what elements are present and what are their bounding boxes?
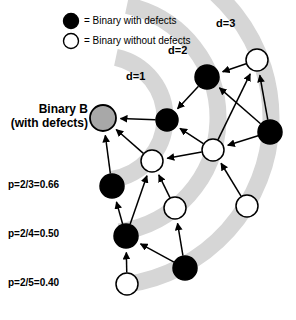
distance-label-d2: d=2 (168, 44, 187, 56)
edge-n8-to-B (105, 135, 110, 173)
node-n5-clean (202, 139, 224, 161)
probability-label-1: p=2/3=0.66 (8, 179, 59, 190)
distance-label-d1: d=1 (126, 70, 145, 82)
node-n12-clean (236, 195, 258, 217)
probability-label-2: p=2/4=0.50 (8, 228, 59, 239)
figure-canvas: = Binary with defects = Binary without d… (0, 0, 296, 320)
edge-n4-to-n5 (228, 136, 258, 146)
edge-n3-to-n2 (223, 64, 246, 72)
node-n3-clean (246, 49, 268, 71)
edge-n6-to-B (116, 130, 143, 154)
edge-n9-to-n8 (116, 202, 122, 224)
focus-node-title-line2: (with defects) (4, 117, 88, 130)
node-n4-defect (258, 120, 282, 144)
node-n7-clean (164, 197, 186, 219)
edge-n7-to-n6 (159, 175, 170, 198)
legend-label-defect: = Binary with defects (84, 15, 177, 26)
edge-n5-to-n6 (167, 152, 201, 158)
probability-label-3: p=2/5=0.40 (8, 277, 59, 288)
node-n11-clean (116, 273, 138, 295)
legend-marker-clean (62, 32, 80, 54)
node-n1-defect (156, 109, 178, 131)
node-n10-defect (173, 256, 197, 280)
edge-n2-to-n1 (178, 86, 199, 108)
node-B-focus (90, 105, 116, 131)
diagram-svg (0, 0, 296, 320)
node-n6-clean (141, 150, 163, 172)
edge-n5-to-n1 (180, 128, 203, 143)
focus-node-title-line1: Binary B (10, 103, 88, 116)
legend-marker-defect (62, 12, 80, 34)
node-n8-defect (100, 174, 124, 198)
edge-n12-to-n5 (221, 163, 241, 196)
edge-n1-to-B (120, 119, 155, 120)
node-n2-defect (195, 65, 219, 89)
edge-n10-to-n9 (141, 244, 175, 262)
edge-n10-to-n7 (178, 223, 183, 255)
node-n9-defect (114, 224, 138, 248)
distance-label-d3: d=3 (216, 17, 235, 29)
